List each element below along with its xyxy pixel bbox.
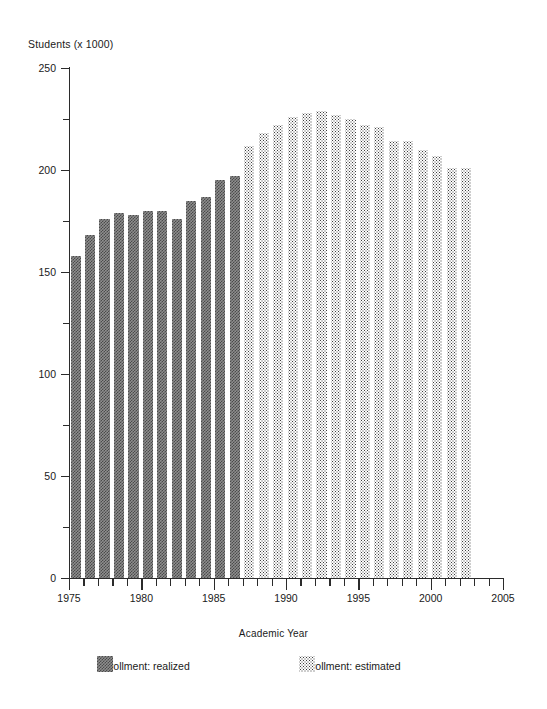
bar — [403, 141, 413, 578]
x-axis-tick — [460, 579, 461, 586]
enrollment-bar-chart: Students (x 1000) 050100150200250 197519… — [0, 0, 547, 709]
x-axis-tick — [170, 579, 171, 586]
bar — [331, 115, 341, 578]
x-axis-tick-label: 2005 — [491, 592, 514, 604]
x-axis-tick — [373, 579, 374, 586]
y-axis-tick-label: 250 — [22, 62, 56, 74]
x-axis-tick-label: 1995 — [347, 592, 370, 604]
x-axis-tick — [300, 579, 301, 586]
x-axis-tick-label: 2000 — [419, 592, 442, 604]
bar — [259, 133, 269, 578]
bar — [114, 213, 124, 578]
x-axis-title: Academic Year — [0, 628, 547, 639]
bar — [302, 113, 312, 578]
y-axis-tick-label: 150 — [22, 266, 56, 278]
x-axis-tick — [185, 579, 186, 586]
bar — [345, 119, 355, 578]
chart-legend: Enrollment: realized Enrollment: estimat… — [69, 660, 503, 690]
bar — [447, 168, 457, 578]
bar — [288, 117, 298, 578]
x-axis-tick — [489, 579, 490, 586]
bar — [99, 219, 109, 578]
y-axis-tick-labels: 050100150200250 — [16, 0, 56, 709]
x-axis-tick — [474, 579, 475, 586]
bar — [85, 235, 95, 578]
x-axis-tick — [83, 579, 84, 586]
x-axis-major-tick — [358, 579, 359, 590]
y-axis-tick — [61, 68, 69, 69]
bar — [230, 176, 240, 578]
bar — [273, 125, 283, 578]
x-axis-tick-label: 1985 — [202, 592, 225, 604]
bar — [143, 211, 153, 578]
bar — [374, 127, 384, 578]
bar — [360, 125, 370, 578]
x-axis-tick — [127, 579, 128, 586]
x-axis-tick — [228, 579, 229, 586]
x-axis-tick — [315, 579, 316, 586]
y-axis-tick — [61, 374, 69, 375]
x-axis-tick — [156, 579, 157, 586]
x-axis-major-tick — [141, 579, 142, 590]
plot-area — [69, 68, 503, 578]
legend-item-realized[interactable]: Enrollment: realized — [97, 660, 190, 672]
y-axis-tick — [61, 170, 69, 171]
bar — [418, 150, 428, 578]
y-axis-tick — [61, 578, 69, 579]
bar — [432, 156, 442, 578]
legend-item-estimated[interactable]: Enrollment: estimated — [299, 660, 401, 672]
bar — [461, 168, 471, 578]
x-axis-tick — [257, 579, 258, 586]
x-axis-tick-label: 1980 — [130, 592, 153, 604]
x-axis-major-tick — [214, 579, 215, 590]
x-axis-tick-label: 1975 — [57, 592, 80, 604]
y-axis-tick — [61, 272, 69, 273]
y-axis-tick-label: 100 — [22, 368, 56, 380]
bar — [389, 141, 399, 578]
x-axis-tick — [402, 579, 403, 586]
x-axis-tick — [387, 579, 388, 586]
y-axis-tick-label: 0 — [22, 572, 56, 584]
bar — [71, 256, 81, 578]
x-axis-tick — [112, 579, 113, 586]
bar — [316, 111, 326, 578]
y-axis-tick — [61, 476, 69, 477]
x-axis-tick — [272, 579, 273, 586]
legend-swatch-estimated — [299, 656, 315, 672]
x-axis-tick — [416, 579, 417, 586]
x-axis-tick — [199, 579, 200, 586]
x-axis-tick — [98, 579, 99, 586]
bar — [244, 146, 254, 578]
x-axis-tick — [243, 579, 244, 586]
x-axis-tick — [329, 579, 330, 586]
y-axis-tick-label: 50 — [22, 470, 56, 482]
bar — [157, 211, 167, 578]
x-axis-major-tick — [431, 579, 432, 590]
legend-swatch-realized — [97, 656, 113, 672]
x-axis-tick-label: 1990 — [274, 592, 297, 604]
x-axis-tick — [445, 579, 446, 586]
x-axis-major-tick — [69, 579, 70, 590]
x-axis-tick — [344, 579, 345, 586]
y-axis-tick-label: 200 — [22, 164, 56, 176]
bar — [186, 201, 196, 578]
bar — [215, 180, 225, 578]
bar — [201, 197, 211, 578]
x-axis-major-tick — [286, 579, 287, 590]
bar — [128, 215, 138, 578]
bar — [172, 219, 182, 578]
x-axis-major-tick — [503, 579, 504, 590]
